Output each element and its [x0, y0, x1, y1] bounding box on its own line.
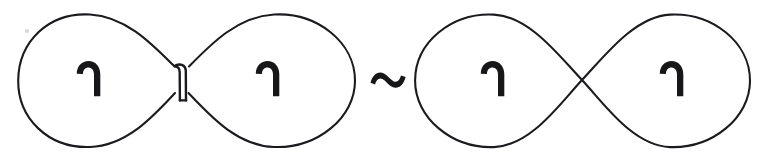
left-figure-clasp-inner — [175, 66, 180, 100]
orientation-hook-icon — [481, 61, 505, 96]
left-figure-right-lobe-outline — [189, 14, 356, 147]
right-figure-eight — [415, 14, 750, 147]
scan-speck — [25, 29, 29, 33]
right-figure-right-lobe-outline — [582, 14, 750, 147]
orientation-hook-icon — [256, 61, 279, 96]
orientation-hook-icon — [660, 61, 684, 96]
tilde-equivalence-icon — [371, 73, 406, 88]
orientation-hook-icon — [77, 61, 101, 96]
curve-diagram-svg — [0, 0, 769, 159]
left-figure-eight — [18, 14, 355, 147]
figure-canvas: Pinched figure-eight curve is equivalent… — [0, 0, 769, 159]
